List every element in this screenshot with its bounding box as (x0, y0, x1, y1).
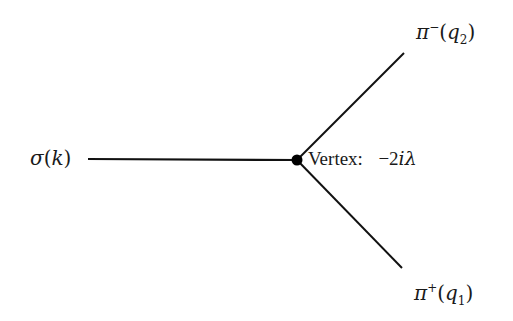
sigma-symbol: σ (30, 146, 44, 170)
vertex-label-lambda: λ (405, 147, 417, 169)
vertex-label: Vertex: −2iλ (308, 149, 417, 168)
pi-minus-charge: − (429, 20, 439, 34)
pi-minus-propagator-line (297, 53, 404, 160)
vertex-label-sign: −2 (378, 148, 398, 169)
pi-minus-symbol: π (416, 20, 429, 44)
vertex-label-prefix: Vertex: (308, 148, 363, 169)
pi-minus-label: π−(q2) (416, 22, 475, 42)
sigma-propagator-line (88, 159, 297, 160)
pi-minus-momentum: q (447, 20, 460, 44)
pi-plus-momentum: q (445, 281, 458, 305)
sigma-momentum: k (51, 146, 63, 170)
feynman-diagram (0, 0, 513, 321)
pi-plus-charge: + (427, 281, 437, 295)
sigma-label: σ(k) (30, 148, 71, 168)
pi-plus-symbol: π (414, 281, 427, 305)
vertex-dot (292, 155, 303, 166)
pi-plus-propagator-line (297, 160, 402, 268)
pi-plus-label: π+(q1) (414, 283, 473, 303)
